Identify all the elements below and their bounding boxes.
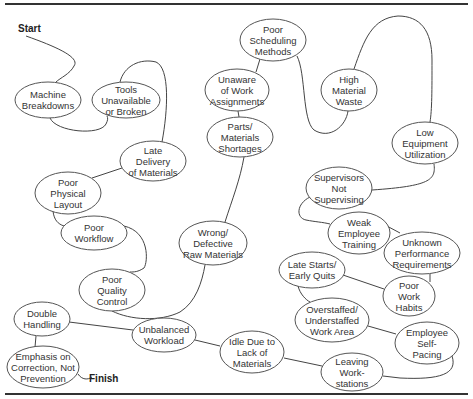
node-unbalanced-workload: UnbalancedWorkload	[132, 318, 196, 352]
node-label-line: High	[339, 74, 359, 85]
node-label-line: Layout	[54, 199, 83, 210]
diagram-nodes: MachineBreakdownsToolsUnavailableor Brok…	[7, 19, 460, 391]
node-label-line: Poor	[263, 24, 283, 35]
node-label-line: or Broken	[105, 106, 146, 117]
node-label-line: Poor	[399, 280, 419, 291]
node-label-line: Training	[342, 239, 376, 250]
node-idle-due-to-lack-of-materials: Idle Due toLack ofMaterials	[220, 331, 284, 373]
connector-work-habits-to-late-starts	[340, 274, 384, 289]
node-poor-scheduling-methods: PoorSchedulingMethods	[240, 19, 306, 61]
node-label-line: Early Quits	[289, 270, 336, 281]
node-label-line: Waste	[336, 96, 363, 107]
node-label-line: Understaffed	[305, 315, 359, 326]
node-label-line: Handling	[23, 319, 61, 330]
node-label-line: Workflow	[75, 233, 114, 244]
node-label-line: Unbalanced	[139, 324, 190, 335]
node-label-line: Poor	[102, 274, 122, 285]
node-label-line: Habits	[396, 302, 423, 313]
node-label-line: Poor	[58, 177, 78, 188]
node-label-line: Pacing	[412, 349, 441, 360]
connector-start-to-machine	[26, 36, 75, 82]
node-label-line: Tools	[115, 84, 137, 95]
node-label-line: Work	[398, 291, 420, 302]
node-label-line: Not	[332, 183, 347, 194]
node-poor-work-habits: PoorWorkHabits	[383, 276, 435, 316]
node-parts-materials-shortages: Parts/MaterialsShortages	[207, 117, 273, 157]
connector-late-delivery-to-layout	[92, 168, 122, 178]
node-label-line: Supervisors	[314, 172, 364, 183]
node-label-line: Unaware	[218, 74, 256, 85]
node-label-line: Scheduling	[249, 35, 296, 46]
node-label-line: Delivery	[136, 156, 171, 167]
node-label-line: Idle Due to	[229, 336, 275, 347]
node-poor-quality-control: PoorQualityControl	[79, 269, 145, 311]
node-label-line: Emphasis on	[16, 351, 71, 362]
node-label-line: Requirements	[392, 259, 451, 270]
node-label-line: Late	[144, 145, 163, 156]
node-label-line: Parts/	[228, 121, 253, 132]
connector-unaware-to-scheduling	[256, 59, 260, 72]
node-label-line: Performance	[395, 248, 449, 259]
node-emphasis-on-correction: Emphasis onCorrection, NotPrevention	[7, 346, 79, 388]
connector-double-to-emphasis	[35, 336, 36, 347]
node-label-line: Leaving	[335, 356, 368, 367]
node-label-line: Physical	[50, 188, 85, 199]
node-label-line: stations	[336, 378, 369, 389]
node-double-handling: DoubleHandling	[14, 302, 70, 336]
node-label-line: Poor	[84, 222, 104, 233]
node-poor-workflow: PoorWorkflow	[61, 216, 127, 250]
node-label-line: Low	[416, 127, 434, 138]
node-weak-employee-training: WeakEmployeeTraining	[328, 212, 390, 254]
node-label-line: Workload	[144, 335, 184, 346]
node-label-line: Wrong/	[198, 227, 229, 238]
node-label-line: Defective	[193, 238, 233, 249]
node-label-line: Unavailable	[101, 95, 151, 106]
connector-parts-to-unaware	[238, 111, 239, 117]
connector-idle-to-unbalanced	[195, 340, 220, 346]
node-late-delivery: LateDeliveryof Materials	[120, 141, 186, 181]
node-label-line: Quality	[97, 285, 127, 296]
connector-wrong-to-parts	[225, 157, 244, 222]
spaghetti-diagram: MachineBreakdownsToolsUnavailableor Brok…	[0, 0, 473, 399]
connector-low-util-to-supervisors	[372, 164, 434, 190]
node-leaving-workstations: LeavingWork-stations	[321, 353, 383, 391]
node-label-line: Lack of	[237, 347, 268, 358]
node-label-line: Breakdowns	[22, 100, 75, 111]
node-employee-self-pacing: EmployeeSelf-Pacing	[395, 322, 459, 364]
node-late-starts-early-quits: Late Starts/Early Quits	[279, 252, 345, 288]
node-low-equipment-utilization: LowEquipmentUtilization	[392, 122, 458, 164]
node-label-line: Weak	[347, 217, 371, 228]
node-label-line: Overstaffed/	[306, 304, 358, 315]
node-unaware-of-work-assignments: Unawareof WorkAssignments	[205, 69, 269, 111]
start-label: Start	[18, 23, 41, 34]
node-wrong-defective-raw-materials: Wrong/DefectiveRaw Materials	[179, 221, 247, 265]
node-label-line: Employee	[406, 327, 448, 338]
node-label-line: Double	[27, 308, 57, 319]
connector-machine-to-tools	[50, 116, 108, 131]
node-label-line: Work Area	[310, 326, 355, 337]
node-tools-unavailable: ToolsUnavailableor Broken	[92, 82, 160, 118]
node-overstaffed-understaffed: Overstaffed/UnderstaffedWork Area	[295, 298, 369, 342]
node-label-line: Methods	[255, 46, 292, 57]
node-label-line: Materials	[221, 132, 260, 143]
node-label-line: Assignments	[210, 96, 265, 107]
node-label-line: Unknown	[402, 237, 442, 248]
node-label-line: Raw Materials	[183, 249, 243, 260]
node-poor-physical-layout: PoorPhysicalLayout	[35, 172, 101, 214]
node-label-line: Supervising	[314, 194, 364, 205]
node-label-line: Shortages	[218, 143, 262, 154]
node-label-line: Employee	[338, 228, 380, 239]
node-machine-breakdowns: MachineBreakdowns	[15, 82, 81, 118]
connector-unbalanced-to-double	[69, 322, 133, 330]
node-high-material-waste: HighMaterialWaste	[321, 69, 377, 111]
node-label-line: Self-	[417, 338, 437, 349]
node-label-line: Prevention	[20, 373, 65, 384]
node-label-line: Equipment	[402, 138, 448, 149]
node-label-line: Work-	[339, 367, 364, 378]
node-label-line: Late Starts/	[288, 259, 337, 270]
connector-overstaffed-to-self-pacing	[368, 326, 396, 334]
node-unknown-performance-requirements: UnknownPerformanceRequirements	[384, 232, 460, 274]
connector-late-starts-to-overstaffed	[298, 286, 310, 302]
node-label-line: of Materials	[128, 167, 177, 178]
connector-leaving-to-idle	[284, 358, 322, 366]
